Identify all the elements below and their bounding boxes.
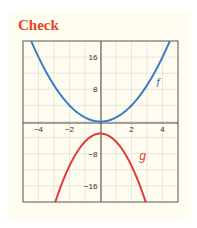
x-tick-label: −4: [34, 125, 44, 134]
x-tick-label: 2: [129, 125, 134, 134]
x-tick-label: −2: [65, 125, 75, 134]
label-f: f: [156, 76, 161, 90]
label-g: g: [139, 149, 146, 163]
y-tick-label: 16: [89, 53, 98, 62]
x-tick-label: 4: [160, 125, 165, 134]
y-tick-label: 8: [93, 85, 98, 94]
y-tick-label: −8: [88, 150, 98, 159]
y-tick-label: −16: [84, 182, 98, 191]
function-graph: −4−224168−8−16 fg: [0, 0, 197, 228]
